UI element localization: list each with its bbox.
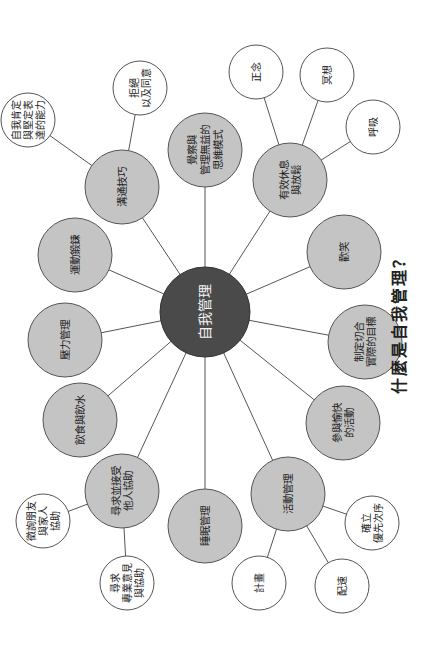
branch-node-sleep-label: 睡眠管理: [199, 505, 211, 546]
leaf-node-priority: 確立優先次序: [345, 496, 399, 550]
branch-node-rest-label: 有效休息與放鬆: [278, 160, 303, 200]
hub-node-label: 自我管理: [197, 284, 213, 340]
diagram-title: 什麼是自我管理？: [386, 250, 410, 394]
leaf-node-breath-label: 呼吸: [368, 117, 379, 137]
branch-node-stress-label: 壓力管理: [59, 319, 71, 360]
leaf-node-refuse: 拒絕以及同意: [113, 61, 167, 115]
node-circles: 自我肯定與堅定表達的能力拒絕以及同意正念冥想呼吸確立優先次序計畫配速徵詢朋友與家…: [1, 45, 402, 613]
branch-node-diet-label: 飲食與飲水: [74, 394, 86, 445]
branch-node-enjoy-label: 參與愉快的活動: [331, 402, 356, 443]
leaf-node-pro: 尋求專業意見與協助: [100, 556, 154, 610]
branch-node-activity-label: 活動管理: [282, 473, 294, 514]
branch-node-enjoy: 參與愉快的活動: [306, 386, 380, 460]
branch-node-thought: 覺察與管理無益的思維模式: [168, 113, 242, 187]
leaf-node-pace: 配速: [315, 559, 369, 613]
branch-node-exercise-label: 運動鍛鍊: [69, 234, 81, 275]
branch-node-help-label: 尋求並接受他人協助: [110, 466, 135, 516]
leaf-node-mindful-label: 正念: [250, 62, 262, 82]
leaf-node-assertive: 自我肯定與堅定表達的能力: [1, 93, 55, 147]
leaf-node-meditate-label: 冥想: [321, 65, 333, 85]
leaf-node-mindful: 正念: [229, 45, 283, 99]
leaf-node-friends: 徵詢朋友與家人協助: [16, 494, 70, 548]
branch-node-exercise: 運動鍛鍊: [38, 218, 112, 292]
branch-node-activity: 活動管理: [251, 457, 325, 531]
leaf-node-pace-label: 配速: [337, 576, 348, 596]
mind-map: 自我肯定與堅定表達的能力拒絕以及同意正念冥想呼吸確立優先次序計畫配速徵詢朋友與家…: [0, 0, 445, 645]
branch-node-diet: 飲食與飲水: [43, 383, 117, 457]
branch-node-help: 尋求並接受他人協助: [85, 454, 159, 528]
branch-node-sleep: 睡眠管理: [168, 489, 242, 563]
leaf-node-plan: 計畫: [232, 556, 286, 610]
hub-node: 自我管理: [160, 267, 250, 357]
leaf-node-plan-label: 計畫: [253, 573, 265, 593]
branch-node-stress: 壓力管理: [28, 303, 102, 377]
branch-node-communication: 溝通技巧: [85, 150, 159, 224]
branch-node-communication-label: 溝通技巧: [116, 166, 128, 207]
branch-node-goals-label: 制定切合實際的目標: [353, 316, 378, 367]
branch-node-rest: 有效休息與放鬆: [253, 143, 327, 217]
leaf-node-meditate: 冥想: [300, 48, 354, 102]
branch-node-laugh-label: 歡笑: [338, 242, 350, 262]
branch-node-laugh: 歡笑: [307, 215, 381, 289]
leaf-node-assertive-label: 自我肯定與堅定表達的能力: [10, 100, 46, 140]
leaf-node-breath: 呼吸: [346, 100, 400, 154]
